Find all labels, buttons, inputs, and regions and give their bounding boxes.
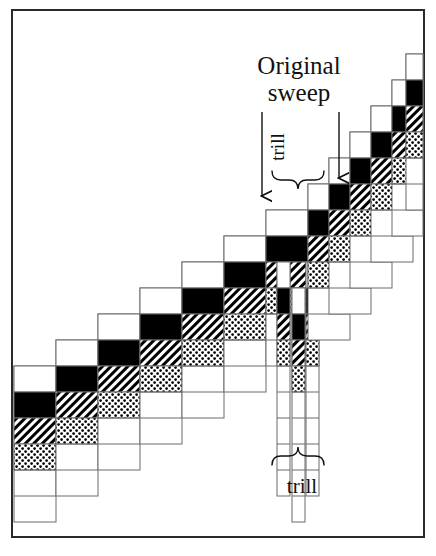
sweep-cell-hatch	[277, 314, 290, 340]
sweep-cell-white	[224, 236, 266, 262]
sweep-cell-white	[182, 262, 224, 288]
sweep-cell-dots	[224, 314, 266, 340]
sweep-column	[182, 262, 224, 418]
label-trill-top: trill	[267, 117, 289, 177]
sweep-cell-white	[277, 262, 290, 288]
label-trill-bottom: trill	[262, 474, 342, 499]
sweep-cell-dots	[182, 340, 224, 366]
sweep-cell-black	[224, 262, 266, 288]
sweep-cell-hatch	[224, 288, 266, 314]
sweep-cell-dots	[56, 418, 98, 444]
sweep-cell-dots	[277, 340, 290, 366]
sweep-cell-white	[292, 288, 305, 314]
sweep-columns	[14, 54, 423, 522]
sweep-cell-dots	[140, 366, 182, 392]
sweep-cell-black	[14, 392, 56, 418]
sweep-cell-white	[14, 366, 56, 392]
sweep-cell-black	[266, 236, 308, 262]
sweep-cell-white	[98, 314, 140, 340]
sweep-cell-hatch	[140, 340, 182, 366]
sweep-column	[224, 236, 266, 392]
sweep-cell-black	[56, 366, 98, 392]
label-original-sweep-line1: Original	[229, 52, 369, 79]
sweep-cell-black	[182, 288, 224, 314]
sweep-cell-hatch	[56, 392, 98, 418]
sweep-cell-hatch	[98, 366, 140, 392]
sweep-cell-dots	[14, 444, 56, 470]
sweep-cell-black	[277, 288, 290, 314]
sweep-cell-white	[406, 54, 423, 80]
sweep-column	[98, 314, 140, 470]
sweep-cell-black	[140, 314, 182, 340]
sweep-cell-black	[292, 314, 305, 340]
sweep-column	[14, 366, 56, 522]
sweep-cell-hatch	[182, 314, 224, 340]
sweep-cell-white	[56, 340, 98, 366]
sweep-cell-dots	[98, 392, 140, 418]
sweep-cell-white	[266, 210, 308, 236]
sweep-cell-dots	[292, 366, 305, 392]
sweep-cell-dots	[406, 132, 423, 158]
diagram-canvas	[0, 0, 436, 556]
sweep-cell-black	[98, 340, 140, 366]
label-original-sweep-line2: sweep	[229, 79, 369, 106]
figure-root: Original sweep trill trill	[0, 0, 436, 556]
sweep-column	[56, 340, 98, 496]
sweep-cell-black	[406, 80, 423, 106]
sweep-cell-hatch	[406, 106, 423, 132]
sweep-column	[140, 288, 182, 444]
sweep-cell-hatch	[292, 340, 305, 366]
trill-column	[277, 262, 290, 496]
sweep-cell-white	[140, 288, 182, 314]
sweep-column	[406, 54, 423, 210]
label-original-sweep: Original sweep	[229, 52, 369, 106]
sweep-cell-hatch	[14, 418, 56, 444]
sweep-cell-dots	[306, 340, 319, 366]
